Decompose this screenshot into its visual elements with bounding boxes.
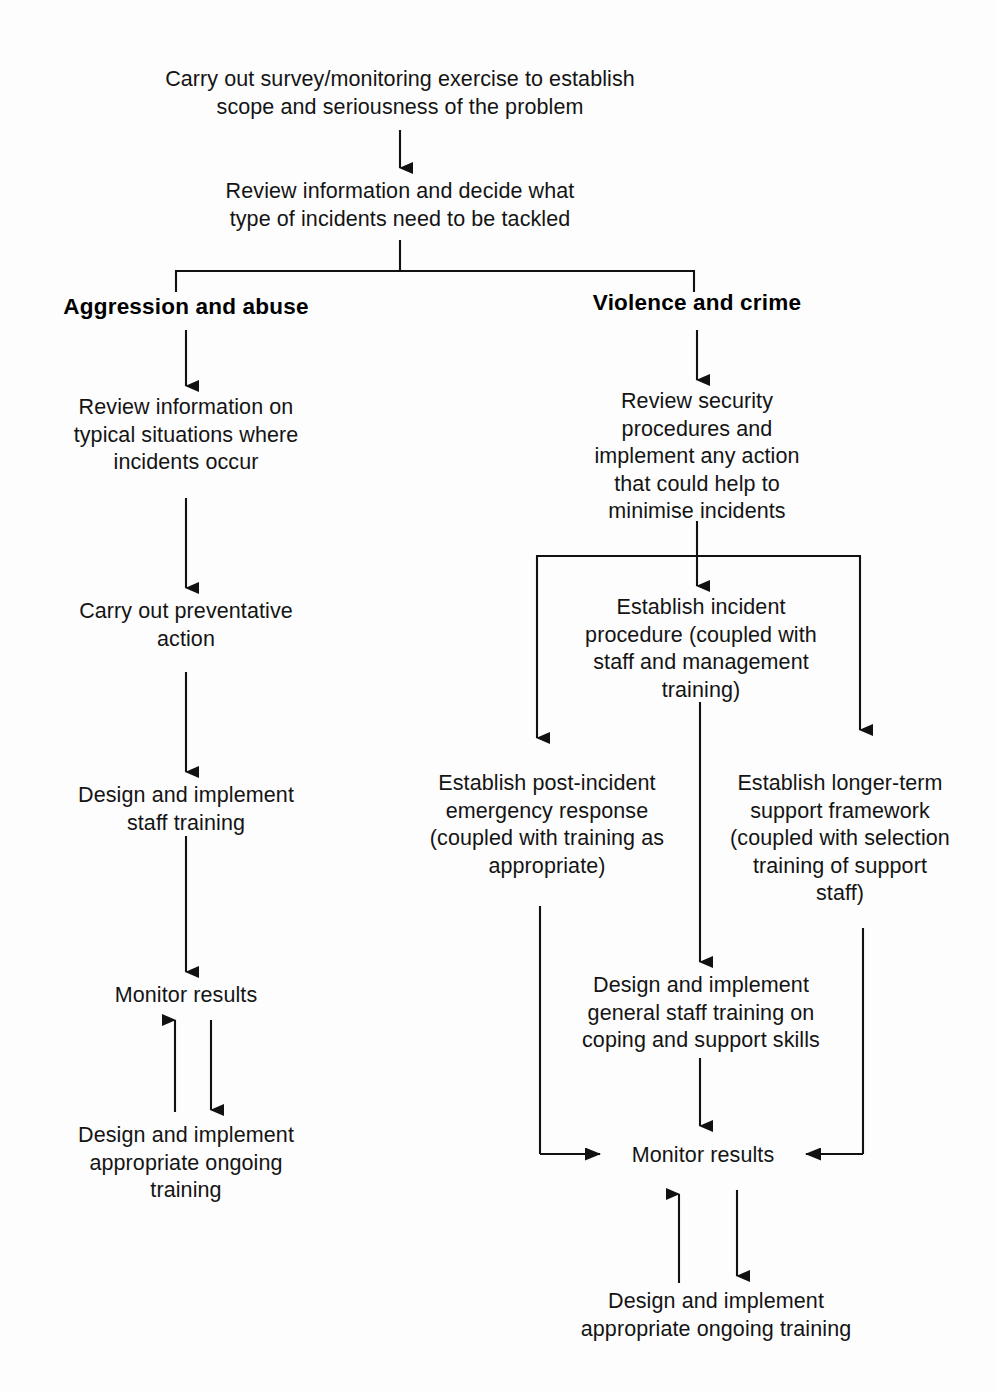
node-right-review-security: Review security procedures and implement… bbox=[572, 388, 822, 526]
branch-label-aggression-and-abuse: Aggression and abuse bbox=[36, 294, 336, 320]
node-left-monitor-results: Monitor results bbox=[66, 982, 306, 1010]
node-left-preventative-action: Carry out preventative action bbox=[36, 598, 336, 653]
node-right-monitor-results: Monitor results bbox=[600, 1142, 806, 1170]
flowchart-page: Carry out survey/monitoring exercise to … bbox=[0, 0, 996, 1392]
branch-label-violence-and-crime: Violence and crime bbox=[572, 290, 822, 316]
node-right-post-incident-response: Establish post-incident emergency respon… bbox=[414, 770, 680, 880]
node-survey: Carry out survey/monitoring exercise to … bbox=[150, 66, 650, 121]
node-review-information: Review information and decide what type … bbox=[175, 178, 625, 233]
node-right-general-staff-training: Design and implement general staff train… bbox=[556, 972, 846, 1055]
node-left-review-information: Review information on typical situations… bbox=[36, 394, 336, 477]
node-right-ongoing-training: Design and implement appropriate ongoing… bbox=[556, 1288, 876, 1343]
node-left-staff-training: Design and implement staff training bbox=[36, 782, 336, 837]
node-right-incident-procedure: Establish incident procedure (coupled wi… bbox=[566, 594, 836, 704]
node-left-ongoing-training: Design and implement appropriate ongoing… bbox=[26, 1122, 346, 1205]
node-right-longer-term-support: Establish longer-term support framework … bbox=[712, 770, 968, 908]
